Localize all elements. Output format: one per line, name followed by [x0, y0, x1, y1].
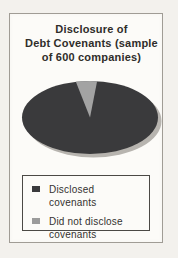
legend-swatch-did-not-disclose-icon	[32, 218, 40, 224]
chart-title-line-1: Disclosure of	[23, 22, 160, 36]
legend-swatch-disclosed-icon	[32, 186, 40, 192]
figure-canvas: Disclosure of Debt Covenants (sample of …	[0, 0, 178, 258]
chart-title: Disclosure of Debt Covenants (sample of …	[10, 22, 162, 64]
chart-frame: Disclosure of Debt Covenants (sample of …	[9, 13, 163, 243]
chart-title-line-2: Debt Covenants (sample	[23, 36, 160, 50]
legend-item-did-not-disclose: Did not disclose covenants	[32, 215, 143, 241]
legend-label-disclosed: Disclosed covenants	[49, 183, 143, 209]
legend: Disclosed covenants Did not disclose cov…	[22, 175, 150, 231]
pie-chart	[10, 71, 162, 173]
legend-label-did-not-disclose: Did not disclose covenants	[49, 215, 143, 241]
legend-item-disclosed: Disclosed covenants	[32, 183, 143, 209]
chart-title-line-3: of 600 companies)	[23, 50, 160, 64]
